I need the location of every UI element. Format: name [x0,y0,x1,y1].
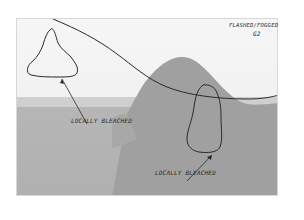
bleached-label-sky: LOCALLY BLEACHED [71,117,132,124]
flashed-label-line2: G2 [253,30,261,37]
landscape-scene [17,19,278,196]
flashed-label-line1: FLASHED/FOGGED [229,22,278,28]
bleached-label-hill: LOCALLY BLEACHED [155,169,216,176]
photograph [16,18,278,196]
